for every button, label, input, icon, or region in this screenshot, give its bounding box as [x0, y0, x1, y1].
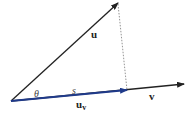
- label-uv-sub: v: [82, 103, 86, 112]
- label-u: u: [91, 28, 97, 40]
- vector-u-line: [11, 3, 118, 101]
- label-v: v: [149, 90, 155, 102]
- projection-diagram: u θ s uv v: [0, 0, 193, 117]
- label-s: s: [72, 85, 76, 96]
- perpendicular-dotted-line: [118, 4, 127, 90]
- label-uv: uv: [76, 98, 86, 112]
- projection-uv-line: [11, 90, 127, 101]
- label-theta: θ: [34, 88, 39, 99]
